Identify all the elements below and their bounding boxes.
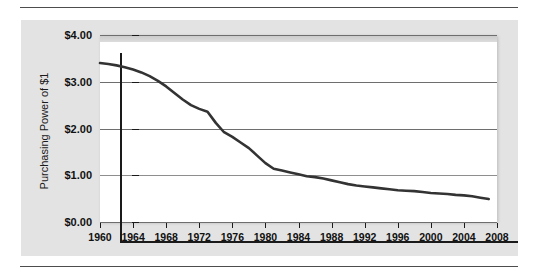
x-tick-mark-7	[332, 223, 333, 228]
y-tick-label-0: $4.00	[46, 29, 92, 41]
y-tick-mark-3	[132, 175, 139, 176]
gridline-y-4	[100, 35, 497, 36]
top-divider-rule	[20, 7, 518, 8]
x-tick-mark-12	[497, 223, 498, 228]
x-tick-mark-3	[199, 223, 200, 228]
gridline-y-3	[100, 82, 497, 83]
y-tick-label-3: $1.00	[46, 169, 92, 181]
y-tick-mark-0	[132, 35, 139, 36]
y-tick-label-2: $2.00	[46, 123, 92, 135]
x-tick-mark-10	[431, 223, 432, 228]
x-tick-mark-1	[133, 223, 134, 228]
gridline-y-2	[100, 129, 497, 130]
plot-area	[100, 35, 497, 222]
chart-container: Purchasing Power of $1	[21, 20, 518, 256]
y-tick-label-1: $3.00	[46, 76, 92, 88]
x-tick-label-12: 2008	[477, 231, 517, 243]
x-tick-mark-2	[166, 223, 167, 228]
bottom-divider-rule	[20, 266, 518, 267]
x-tick-mark-9	[398, 223, 399, 228]
y-axis-line	[120, 53, 122, 243]
x-tick-mark-5	[265, 223, 266, 228]
x-tick-mark-0	[100, 223, 101, 228]
plot-top-gray-band	[100, 35, 497, 42]
y-tick-label-4: $0.00	[46, 216, 92, 228]
x-tick-mark-8	[365, 223, 366, 228]
y-tick-mark-1	[132, 82, 139, 83]
x-tick-mark-6	[299, 223, 300, 228]
gridline-y-1	[100, 175, 497, 176]
y-tick-mark-2	[132, 129, 139, 130]
x-tick-mark-4	[232, 223, 233, 228]
x-tick-mark-11	[464, 223, 465, 228]
